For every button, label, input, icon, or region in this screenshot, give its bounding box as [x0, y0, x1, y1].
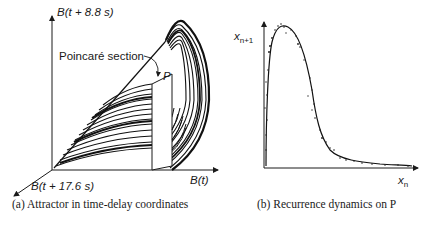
attractor-left-bands	[56, 84, 152, 166]
poincare-section-plane	[152, 74, 172, 170]
section-pointer-arrow	[144, 56, 158, 76]
panel-attractor: B(t + 8.8 s) Poincaré section P B(t) B(t…	[0, 0, 250, 232]
x-axis-label: xn	[398, 174, 408, 189]
y-axis-label: B(t + 8.8 s)	[57, 6, 114, 18]
return-map-points	[264, 23, 409, 167]
caption-a: (a) Attractor in time-delay coordinates	[12, 198, 188, 210]
caption-b: (b) Recurrence dynamics on P	[257, 198, 396, 210]
y-axis-label: xn+1	[234, 30, 253, 45]
poincare-section-label: Poincaré section	[59, 50, 144, 62]
point-p-label: P	[163, 70, 171, 82]
return-map-curve	[266, 26, 412, 166]
z-axis-label: B(t + 17.6 s)	[31, 180, 94, 192]
panel-return-map: xn+1 xn (b) Recurrence dynamics on P	[250, 0, 430, 232]
x-axis-label: B(t)	[190, 174, 209, 186]
